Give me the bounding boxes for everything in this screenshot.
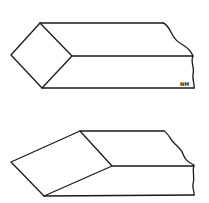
diamond-end-face (11, 23, 72, 88)
signature: NM (180, 81, 189, 87)
angled-end-tool-bit (11, 131, 194, 196)
bottom-edge (44, 195, 194, 196)
diagram-canvas: NM (0, 0, 209, 203)
square-end-tool-bit: NM (11, 23, 194, 88)
tool-bit-illustration: NM (0, 0, 209, 203)
parallelogram-end-face (11, 131, 112, 196)
break-line (164, 131, 194, 195)
